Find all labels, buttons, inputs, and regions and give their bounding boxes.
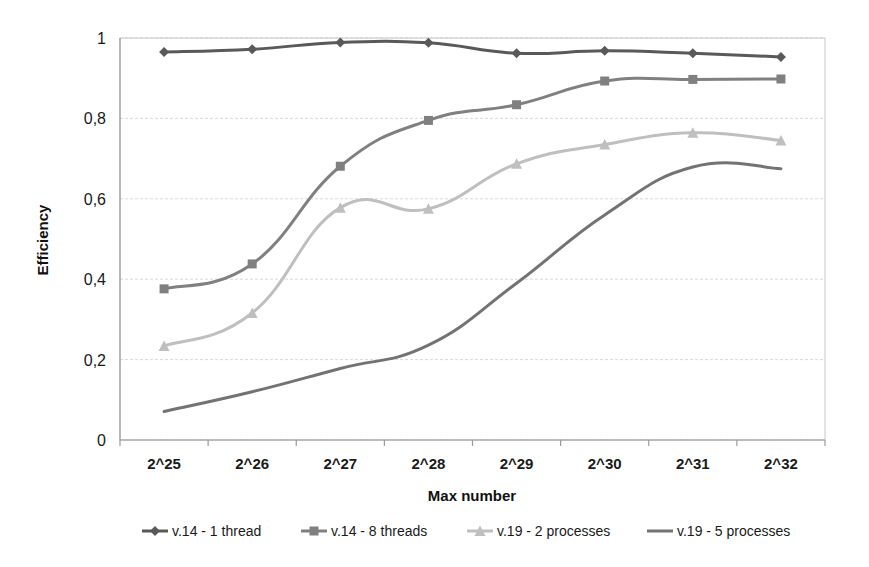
- y-tick-label: 0: [97, 432, 106, 449]
- x-tick-label: 2^32: [764, 455, 798, 472]
- y-tick-label: 0,8: [84, 110, 106, 127]
- y-tick-label: 1: [97, 30, 106, 47]
- x-tick-label: 2^28: [412, 455, 446, 472]
- y-tick-label: 0,4: [84, 271, 106, 288]
- chart-background: [0, 0, 869, 567]
- y-axis-title: Efficiency: [34, 204, 51, 276]
- data-point-marker-square: [160, 284, 169, 293]
- legend-label: v.19 - 5 processes: [677, 523, 790, 539]
- legend-label: v.14 - 8 threads: [331, 523, 427, 539]
- data-point-marker-square: [424, 116, 433, 125]
- data-point-marker-square: [688, 75, 697, 84]
- chart-canvas: 00,20,40,60,81 2^252^262^272^282^292^302…: [0, 0, 869, 567]
- data-point-marker-square: [310, 527, 319, 536]
- x-tick-label: 2^25: [147, 455, 181, 472]
- y-tick-label: 0,2: [84, 352, 106, 369]
- legend-label: v.14 - 1 thread: [172, 523, 261, 539]
- x-tick-label: 2^27: [323, 455, 357, 472]
- y-tick-label: 0,6: [84, 191, 106, 208]
- x-tick-label: 2^31: [676, 455, 710, 472]
- data-point-marker-square: [336, 162, 345, 171]
- x-axis-title: Max number: [428, 487, 517, 504]
- data-point-marker-square: [600, 77, 609, 86]
- efficiency-line-chart: 00,20,40,60,81 2^252^262^272^282^292^302…: [0, 0, 869, 567]
- x-tick-label: 2^29: [500, 455, 534, 472]
- x-tick-label: 2^30: [588, 455, 622, 472]
- data-point-marker-square: [512, 100, 521, 109]
- legend-label: v.19 - 2 processes: [497, 523, 610, 539]
- x-tick-label: 2^26: [235, 455, 269, 472]
- data-point-marker-square: [248, 259, 257, 268]
- data-point-marker-square: [776, 75, 785, 84]
